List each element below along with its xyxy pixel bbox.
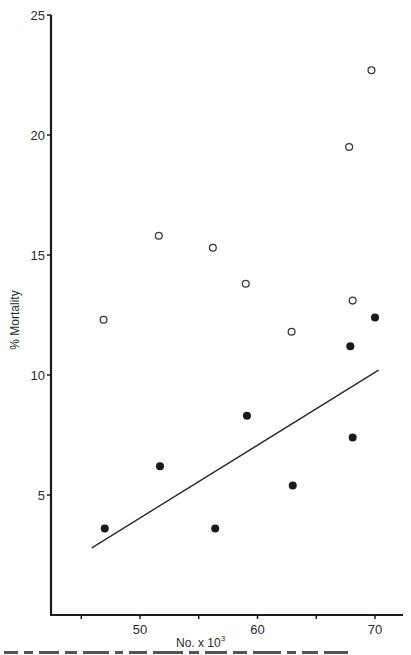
- open-circle-point: [368, 67, 375, 74]
- x-axis-ticks: 506070: [81, 615, 382, 637]
- y-tick-label: 5: [38, 488, 45, 503]
- filled-circle-point: [211, 525, 219, 533]
- open-circle-point: [349, 297, 356, 304]
- regression-line: [92, 370, 379, 548]
- open-circle-point: [209, 244, 216, 251]
- y-tick-label: 10: [31, 368, 45, 383]
- filled-circle-point: [101, 525, 109, 533]
- open-circle-point: [242, 280, 249, 287]
- open-circle-point: [288, 328, 295, 335]
- filled-circle-point: [289, 481, 297, 489]
- open-circle-point: [346, 144, 353, 151]
- x-axis-title: No. x 103: [176, 634, 226, 650]
- filled-circle-point: [349, 433, 357, 441]
- cropped-caption-text: [0, 651, 411, 655]
- x-axis-title-superscript: 3: [221, 634, 226, 643]
- filled-circle-point: [346, 342, 354, 350]
- y-tick-label: 25: [31, 8, 45, 23]
- data-points: [100, 67, 379, 533]
- y-tick-label: 15: [31, 248, 45, 263]
- x-tick-label: 50: [133, 622, 147, 637]
- y-axis-ticks: 510152025: [31, 8, 51, 503]
- x-axis-title-text: No. x 10: [176, 636, 221, 650]
- open-circle-point: [155, 232, 162, 239]
- filled-circle-point: [243, 412, 251, 420]
- scatter-chart: 510152025 506070 % Mortality No. x 103: [0, 0, 411, 655]
- filled-circle-point: [156, 462, 164, 470]
- open-circle-point: [100, 316, 107, 323]
- filled-circle-point: [371, 313, 379, 321]
- regression-line-path: [92, 370, 379, 548]
- chart-canvas: 510152025 506070 % Mortality No. x 103: [0, 0, 411, 655]
- y-axis-title: % Mortality: [8, 290, 22, 349]
- axes: [50, 15, 403, 615]
- y-tick-label: 20: [31, 128, 45, 143]
- x-tick-label: 60: [250, 622, 264, 637]
- x-tick-label: 70: [368, 622, 382, 637]
